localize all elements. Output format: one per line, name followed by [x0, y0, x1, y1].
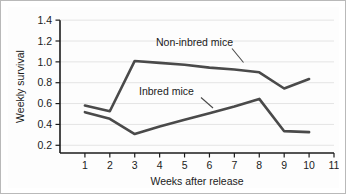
x-tick-label: 6 [207, 159, 213, 171]
y-tick-label: 1.0 [37, 56, 52, 68]
x-axis-title: Weeks after release [150, 175, 243, 187]
plot-panel: 0.2 0.4 0.6 0.8 1.0 1.2 1.4 [8, 7, 339, 188]
x-tick-label: 5 [182, 159, 188, 171]
y-tick-label: 0.6 [37, 97, 52, 109]
annotation-inbred-mice: Inbred mice [139, 85, 194, 97]
x-tick-label: 11 [329, 159, 339, 171]
y-tick-label: 1.4 [37, 14, 52, 26]
y-axis-tick-labels: 0.2 0.4 0.6 0.8 1.0 1.2 1.4 [37, 14, 52, 151]
x-tick-label: 1 [82, 159, 88, 171]
y-tick-label: 0.4 [37, 118, 52, 130]
series-line-inbred-mice [85, 99, 309, 134]
y-tick-label: 0.8 [37, 76, 52, 88]
leader-line-non-inbred [232, 49, 244, 63]
x-axis-tick-labels: 1 2 3 4 5 6 7 8 9 10 11 [82, 159, 339, 171]
line-chart: 0.2 0.4 0.6 0.8 1.0 1.2 1.4 [8, 7, 339, 188]
x-tick-label: 3 [132, 159, 138, 171]
x-tick-label: 7 [231, 159, 237, 171]
x-tick-label: 9 [281, 159, 287, 171]
x-tick-label: 4 [157, 159, 163, 171]
x-tick-label: 2 [107, 159, 113, 171]
chart-figure: 0.2 0.4 0.6 0.8 1.0 1.2 1.4 [0, 0, 346, 194]
y-tick-label: 1.2 [37, 35, 52, 47]
y-axis-title: Weekly survival [14, 50, 26, 123]
x-tick-label: 8 [256, 159, 262, 171]
y-tick-label: 0.2 [37, 139, 52, 151]
x-tick-label: 10 [303, 159, 315, 171]
leader-line-inbred [201, 98, 213, 109]
annotation-non-inbred-mice: Non-inbred mice [156, 36, 233, 48]
